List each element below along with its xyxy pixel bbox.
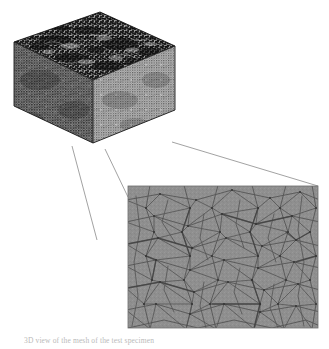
detail-triangulation — [126, 185, 320, 329]
mesh-figure-svg — [0, 0, 329, 349]
leader-line-right — [172, 142, 318, 186]
magnified-mesh-detail — [126, 185, 320, 329]
mesh-cube — [10, 8, 182, 148]
leader-line-left — [72, 146, 97, 240]
figure-caption: 3D view of the mesh of the test specimen — [24, 336, 324, 345]
figure-container: 3D view of the mesh of the test specimen — [0, 0, 329, 349]
leader-line-middle — [105, 149, 128, 197]
